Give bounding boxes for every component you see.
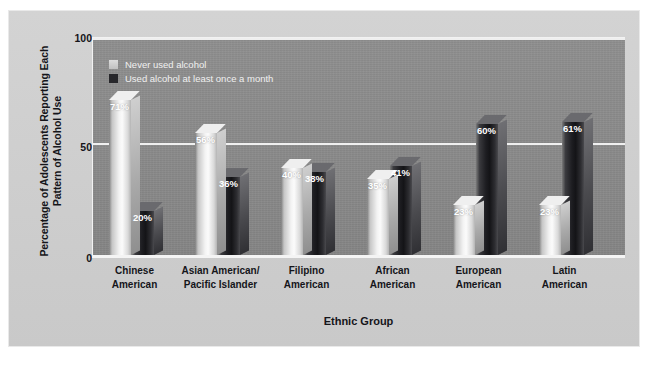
value-label-used-monthly-4: 41% bbox=[391, 168, 410, 178]
value-label-never-used-3: 40% bbox=[282, 170, 301, 180]
dark-swatch-icon bbox=[109, 74, 118, 83]
gridline-50 bbox=[93, 143, 625, 145]
legend-item-used-monthly: Used alcohol at least once a month bbox=[109, 72, 273, 86]
plot-floor bbox=[93, 255, 625, 258]
plot-area: Never used alcohol Used alcohol at least… bbox=[92, 37, 625, 258]
value-label-never-used-5: 23% bbox=[454, 207, 473, 217]
value-label-never-used-4: 35% bbox=[368, 181, 387, 191]
y-tick-100: 100 bbox=[62, 32, 92, 44]
x-axis-title: Ethnic Group bbox=[92, 315, 625, 327]
bar-side-face bbox=[240, 173, 249, 255]
x-axis-category-labels: ChineseAmericanAsian American/Pacific Is… bbox=[92, 264, 625, 300]
value-label-used-monthly-5: 60% bbox=[477, 126, 496, 136]
legend-item-never-used: Never used alcohol bbox=[109, 58, 273, 72]
value-label-used-monthly-2: 36% bbox=[219, 179, 238, 189]
value-label-used-monthly-3: 38% bbox=[305, 174, 324, 184]
bar-side-face bbox=[584, 118, 593, 255]
plot-top-rail bbox=[93, 38, 625, 40]
bar-side-face bbox=[498, 120, 507, 255]
light-swatch-icon bbox=[109, 60, 118, 69]
bar-front-face bbox=[109, 100, 131, 255]
category-label-line: American bbox=[505, 278, 625, 292]
bar-side-face bbox=[154, 207, 163, 255]
bar-front-face bbox=[281, 168, 303, 255]
bar-side-face bbox=[131, 96, 140, 255]
bar-front-face bbox=[195, 133, 217, 255]
legend-label-never-used: Never used alcohol bbox=[125, 58, 206, 72]
bar-side-face bbox=[412, 162, 421, 255]
value-label-used-monthly-6: 61% bbox=[563, 124, 582, 134]
bar-side-face bbox=[326, 168, 335, 255]
bar-side-face bbox=[389, 175, 398, 255]
value-label-used-monthly-1: 20% bbox=[133, 213, 152, 223]
category-label-6: LatinAmerican bbox=[505, 264, 625, 291]
bar-side-face bbox=[475, 201, 484, 255]
category-label-line: Latin bbox=[505, 264, 625, 278]
bar-side-face bbox=[217, 129, 226, 255]
y-tick-0: 0 bbox=[62, 252, 92, 264]
legend-label-used-monthly: Used alcohol at least once a month bbox=[125, 72, 273, 86]
y-tick-50: 50 bbox=[62, 141, 92, 153]
value-label-never-used-6: 23% bbox=[540, 207, 559, 217]
bar-never-used-3 bbox=[281, 168, 303, 255]
bar-never-used-1 bbox=[109, 100, 131, 255]
value-label-never-used-2: 56% bbox=[196, 135, 215, 145]
bar-side-face bbox=[561, 201, 570, 255]
figure-frame: Percentage of Adolescents Reporting Each… bbox=[8, 10, 640, 347]
y-axis-ticks: 100 50 0 bbox=[58, 10, 92, 347]
bar-never-used-2 bbox=[195, 133, 217, 255]
legend: Never used alcohol Used alcohol at least… bbox=[109, 58, 273, 86]
value-label-never-used-1: 71% bbox=[110, 102, 129, 112]
